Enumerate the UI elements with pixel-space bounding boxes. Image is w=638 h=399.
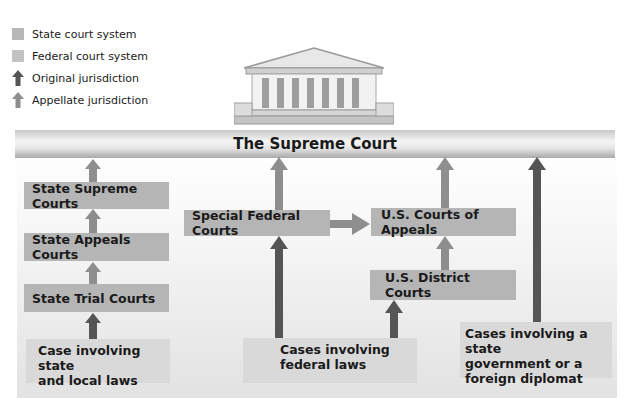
box-label: State Supreme Courts bbox=[32, 181, 169, 211]
appellate-arrow-state-supreme bbox=[85, 159, 101, 182]
case-state-local-laws: Case involving state and local laws bbox=[26, 339, 170, 383]
box-label: U.S. Courts of Appeals bbox=[381, 207, 516, 237]
case-federal-laws: Cases involving federal laws bbox=[243, 338, 417, 383]
case-line: Cases involving bbox=[280, 342, 407, 357]
appellate-arrow-state-trial bbox=[85, 262, 101, 284]
case-line: federal laws bbox=[280, 357, 407, 372]
state-trial-courts-box: State Trial Courts bbox=[24, 284, 169, 312]
original-arrow-diplomat bbox=[528, 157, 546, 322]
state-supreme-courts-box: State Supreme Courts bbox=[24, 182, 169, 209]
original-arrow-federal-special bbox=[270, 236, 288, 338]
appellate-arrow-special-to-appeals bbox=[330, 213, 370, 235]
case-state-government-diplomat: Cases involving a state government or a … bbox=[460, 322, 612, 378]
appellate-arrow-state-appeals bbox=[85, 209, 101, 233]
case-line: foreign diplomat bbox=[465, 371, 602, 386]
box-label: State Appeals Courts bbox=[32, 232, 169, 262]
appellate-arrow-special-federal bbox=[270, 157, 288, 210]
original-arrow-federal-district bbox=[385, 300, 403, 338]
appellate-arrow-us-district bbox=[436, 236, 454, 270]
state-appeals-courts-box: State Appeals Courts bbox=[24, 233, 169, 261]
us-courts-of-appeals-box: U.S. Courts of Appeals bbox=[371, 208, 516, 236]
box-label: State Trial Courts bbox=[32, 291, 155, 306]
case-line: government or a bbox=[465, 356, 602, 371]
box-label: U.S. District Courts bbox=[385, 270, 516, 300]
us-district-courts-box: U.S. District Courts bbox=[370, 270, 516, 300]
case-line: and local laws bbox=[38, 373, 160, 388]
special-federal-courts-box: Special Federal Courts bbox=[184, 210, 330, 236]
case-line: Cases involving a state bbox=[465, 326, 602, 356]
box-label: Special Federal Courts bbox=[192, 208, 330, 238]
original-arrow-state-case bbox=[85, 313, 101, 339]
case-line: Case involving state bbox=[38, 343, 160, 373]
appellate-arrow-us-appeals bbox=[436, 157, 454, 208]
